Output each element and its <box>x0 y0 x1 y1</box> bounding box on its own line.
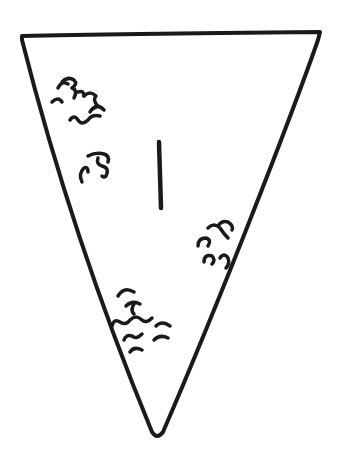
inverted-triangle-outline <box>22 32 320 436</box>
squiggle-cluster-lower <box>112 290 170 352</box>
sketch-canvas <box>0 0 338 463</box>
squiggle-cluster-middle-left <box>80 153 108 182</box>
vertical-line-mark <box>159 142 161 208</box>
squiggle-cluster-upper-left <box>52 78 104 123</box>
squiggle-cluster-right <box>198 222 233 269</box>
